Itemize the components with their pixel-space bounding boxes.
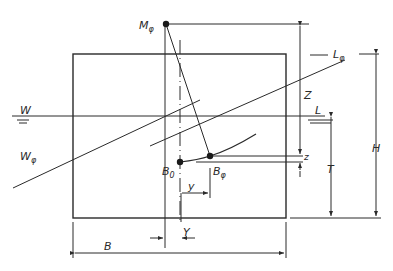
label-W: W xyxy=(20,104,32,117)
label-B0: B0 xyxy=(162,165,175,180)
label-B: B xyxy=(104,240,112,253)
label-z: z xyxy=(303,152,309,162)
buoyancy-curve xyxy=(180,134,256,162)
label-y: y xyxy=(187,180,195,193)
label-L: L xyxy=(315,104,321,117)
inclined-waterline-right xyxy=(150,60,345,146)
label-B-phi: Bφ xyxy=(213,165,227,180)
buoyancy-upright-point xyxy=(177,159,183,165)
label-metacenter: Mφ xyxy=(139,19,155,34)
label-L-phi: Lφ xyxy=(333,48,345,63)
label-T: T xyxy=(327,163,335,176)
label-Y: Y xyxy=(183,226,191,239)
label-Z: Z xyxy=(303,89,312,102)
buoyancy-heeled-point xyxy=(207,153,213,159)
label-H: H xyxy=(372,142,380,155)
metacenter-point xyxy=(163,21,169,27)
label-W-phi: Wφ xyxy=(20,150,37,165)
stability-diagram: Mφ W L Lφ Wφ B0 Bφ Z z T H B Y y xyxy=(0,0,393,271)
